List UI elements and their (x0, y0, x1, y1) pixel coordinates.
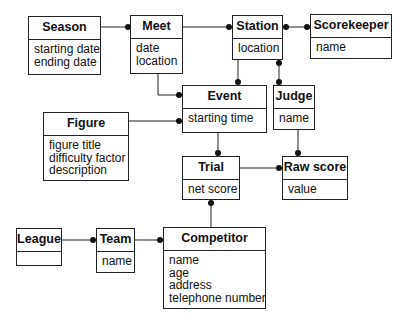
attribute: name (316, 41, 386, 54)
attribute: net score (188, 183, 234, 196)
entity-title: Trial (183, 157, 239, 180)
attribute: description (49, 164, 123, 177)
entity-attributes: starting date ending date (29, 40, 100, 71)
attribute: name (169, 254, 260, 267)
attribute: address (169, 279, 260, 292)
entity-league: League (16, 228, 62, 266)
entity-title: League (17, 229, 61, 252)
entity-event: Event starting time (182, 85, 267, 133)
attribute: location (238, 42, 277, 55)
entity-attributes (17, 252, 61, 258)
entity-title: Figure (44, 113, 128, 136)
attribute: figure title (49, 139, 123, 152)
entity-season: Season starting date ending date (28, 16, 101, 75)
entity-title: Season (29, 17, 100, 40)
entity-attributes: figure title difficulty factor descripti… (44, 136, 128, 180)
attribute: location (136, 55, 177, 68)
entity-attributes: value (283, 180, 347, 199)
entity-trial: Trial net score (182, 156, 240, 200)
entity-attributes: date location (131, 39, 182, 70)
entity-attributes: name (311, 38, 391, 57)
entity-meet: Meet date location (130, 15, 183, 74)
entity-title: Meet (131, 16, 182, 39)
entity-attributes: net score (183, 180, 239, 199)
entity-title: Event (183, 86, 266, 109)
attribute: name (102, 255, 129, 268)
entity-competitor: Competitor name age address telephone nu… (163, 227, 266, 309)
entity-station: Station location (232, 15, 283, 60)
entity-attributes: location (233, 39, 282, 58)
entity-title: Judge (274, 86, 314, 109)
entity-attributes: name age address telephone number (164, 251, 265, 307)
attribute: starting date (34, 43, 95, 56)
entity-attributes: starting time (183, 109, 266, 128)
entity-judge: Judge name (273, 85, 315, 130)
entity-title: Station (233, 16, 282, 39)
entity-title: Team (97, 229, 134, 252)
entity-team: Team name (96, 228, 135, 273)
entity-title: Raw score (283, 157, 347, 180)
attribute: telephone number (169, 292, 260, 305)
entity-raw-score: Raw score value (282, 156, 348, 200)
entity-title: Competitor (164, 228, 265, 251)
attribute: value (288, 183, 342, 196)
attribute: date (136, 42, 177, 55)
entity-attributes: name (97, 252, 134, 271)
entity-scorekeeper: Scorekeeper name (310, 14, 392, 59)
cropped-caption (0, 318, 400, 326)
attribute: starting time (188, 112, 261, 125)
entity-figure: Figure figure title difficulty factor de… (43, 112, 129, 181)
attribute: ending date (34, 56, 95, 69)
attribute: name (279, 112, 309, 125)
entity-attributes: name (274, 109, 314, 128)
entity-title: Scorekeeper (311, 15, 391, 38)
